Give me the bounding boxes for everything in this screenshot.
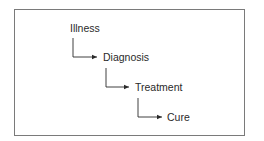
edge-illness-diagnosis (73, 38, 97, 57)
connectors (0, 0, 264, 141)
node-illness: Illness (70, 22, 100, 34)
edge-diagnosis-treatment (106, 68, 129, 87)
node-cure: Cure (167, 111, 190, 123)
edge-treatment-cure (138, 98, 162, 117)
node-treatment: Treatment (135, 81, 182, 93)
node-diagnosis: Diagnosis (103, 51, 149, 63)
